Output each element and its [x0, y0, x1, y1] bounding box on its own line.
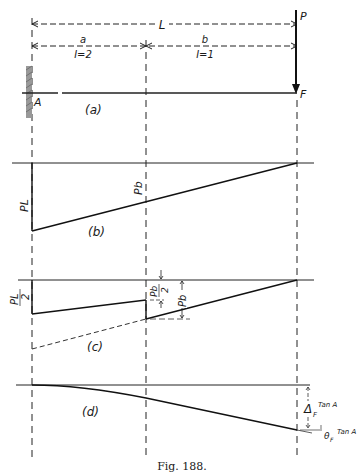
segment-a-label: a [80, 34, 86, 45]
support-label: A [33, 96, 42, 109]
tangent-label-1: Tan A [318, 401, 337, 409]
segment-b-inertia: I=1 [196, 49, 214, 60]
pl2-numerator: PL [9, 293, 20, 305]
pl2-denominator: 2 [20, 294, 31, 300]
pb2-numerator: Pb [149, 286, 159, 297]
span-label: L [159, 18, 166, 32]
panel-b-label: (b) [88, 225, 105, 239]
pl-ordinate-label: PL [18, 199, 31, 212]
deflection-subscript: F [313, 411, 318, 419]
panel-d-label: (d) [82, 405, 99, 419]
panel-b: PL Pb (b) [12, 163, 314, 239]
pb-step-label: Pb [177, 295, 188, 307]
panel-c-label: (c) [87, 340, 103, 354]
panel-d: Δ F Tan A θ F Tan A (d) [16, 385, 356, 443]
figure-188: L a I=2 b I=1 A F P (a) PL [0, 0, 364, 475]
figure-caption: Fig. 188. [157, 460, 207, 473]
vertical-guides [32, 18, 297, 460]
panel-a-label: (a) [85, 103, 102, 117]
load-label: P [300, 10, 307, 23]
moment-line [32, 163, 297, 231]
segment-b-label: b [202, 34, 208, 45]
reduced-moment-right [146, 280, 297, 319]
reduced-moment-left [32, 300, 146, 314]
pb2-denominator: 2 [160, 287, 170, 293]
rotation-subscript: F [330, 436, 334, 443]
panel-a: L a I=2 b I=1 A F P (a) [22, 10, 307, 118]
tangent-label-2: Tan A [337, 428, 356, 436]
panel-c: Pb 2 Pb PL 2 (c) [9, 270, 314, 354]
pb-ordinate-label: Pb [132, 181, 145, 195]
deflection-label: Δ [303, 402, 312, 416]
deflected-shape [32, 385, 297, 430]
segment-a-inertia: I=2 [74, 49, 92, 60]
free-end-label: F [300, 88, 307, 101]
